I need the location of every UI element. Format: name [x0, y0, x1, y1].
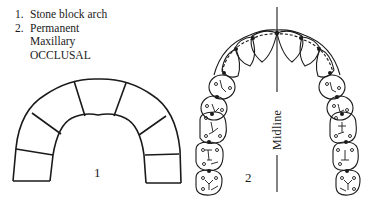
midline-label: Midline	[270, 110, 285, 150]
tooth-right-second-molar	[333, 142, 358, 170]
tooth-right-second-premolar	[327, 96, 353, 120]
tooth-right-first-premolar	[319, 75, 345, 99]
contact-points	[207, 31, 349, 173]
figure-2-label: 2	[245, 170, 252, 186]
figure-1-label: 1	[94, 165, 101, 181]
tooth-left-central-incisor	[251, 31, 277, 62]
maxillary-arch	[196, 7, 360, 195]
tooth-left-third-molar	[196, 170, 222, 195]
tooth-right-central-incisor	[277, 31, 303, 62]
diagram-canvas	[0, 0, 378, 201]
tooth-right-first-molar	[330, 112, 356, 143]
tooth-right-third-molar	[336, 170, 360, 195]
tooth-left-second-molar	[196, 142, 223, 170]
